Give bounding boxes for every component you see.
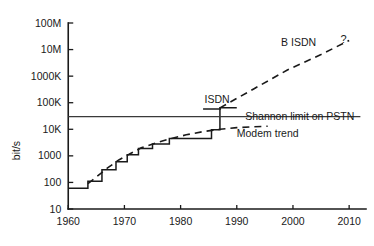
bandwidth-growth-chart: 10100100010K100K1000K10M100M196019701980… <box>0 0 374 246</box>
isdn-staircase-line <box>68 108 237 188</box>
annotation-b-isdn: B ISDN <box>281 36 316 48</box>
y-tick-label: 10 <box>50 203 62 215</box>
y-tick-label: 100 <box>44 176 62 188</box>
annotation-modem-trend: Modem trend <box>237 127 299 139</box>
b-isdn-dashed-line <box>220 40 349 107</box>
y-tick-label: 1000 <box>38 149 62 161</box>
x-tick-label: 1960 <box>57 215 81 227</box>
x-tick-label: 2010 <box>337 215 361 227</box>
y-tick-label: 100K <box>37 96 62 108</box>
y-tick-label: 10K <box>43 123 62 135</box>
y-axis-title: bit/s <box>10 141 22 160</box>
y-tick-label: 1000K <box>31 70 61 82</box>
y-tick-label: 100M <box>35 17 61 29</box>
chart-canvas: 10100100010K100K1000K10M100M196019701980… <box>0 0 374 246</box>
x-tick-label: 1980 <box>169 215 193 227</box>
x-tick-label: 1990 <box>225 215 249 227</box>
x-tick-label: 2000 <box>281 215 305 227</box>
annotation-isdn: ISDN <box>205 93 230 105</box>
x-tick-label: 1970 <box>113 215 137 227</box>
annotation-b-isdn-question: ? <box>340 33 346 45</box>
annotation-shannon-limit: Shannon limit on PSTN <box>245 110 354 122</box>
y-tick-label: 10M <box>41 43 61 55</box>
